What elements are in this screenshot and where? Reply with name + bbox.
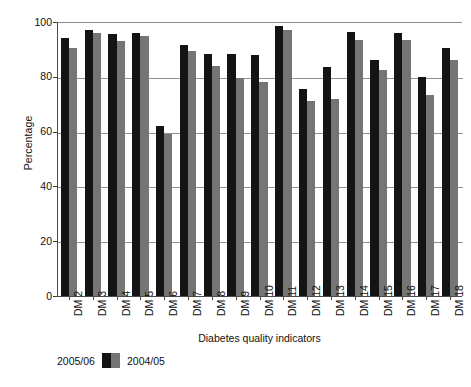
x-tick-mark — [140, 296, 141, 300]
bar-dm-11-2004-05 — [283, 30, 291, 296]
legend-swatch — [102, 353, 120, 368]
bar-dm-15-2004-05 — [379, 70, 387, 296]
legend-swatch-2004-05 — [111, 353, 120, 368]
x-tick-mark — [450, 296, 451, 300]
y-axis-tick-labels: 020406080100 — [22, 0, 52, 387]
x-axis-tick-labels: DM 2DM 3DM 4DM 5DM 6DM 7DM 8DM 9DM 10DM … — [57, 296, 462, 336]
bar-dm-12-2005-06 — [299, 89, 307, 296]
y-tick-mark — [53, 296, 57, 297]
y-tick-label: 80 — [26, 71, 52, 81]
x-tick-mark — [188, 296, 189, 300]
bar-dm-13-2004-05 — [331, 99, 339, 296]
bar-dm-16-2004-05 — [402, 40, 410, 296]
bar-dm-17-2004-05 — [426, 95, 434, 296]
bar-dm-2-2005-06 — [61, 38, 69, 296]
x-tick-label: DM 6 — [168, 272, 179, 316]
x-tick-mark — [164, 296, 165, 300]
x-tick-label: DM 2 — [73, 272, 84, 316]
x-tick-label: DM 17 — [430, 272, 441, 316]
bar-dm-4-2005-06 — [108, 34, 116, 296]
x-tick-mark — [69, 296, 70, 300]
bar-group — [370, 22, 386, 296]
x-tick-label: DM 16 — [406, 272, 417, 316]
y-tick-label: 40 — [26, 181, 52, 191]
x-tick-label: DM 9 — [240, 272, 251, 316]
bar-dm-13-2005-06 — [323, 67, 331, 296]
x-tick-label: DM 13 — [335, 272, 346, 316]
bar-dm-9-2005-06 — [227, 54, 235, 296]
x-tick-mark — [260, 296, 261, 300]
x-tick-mark — [93, 296, 94, 300]
y-tick-label: 60 — [26, 126, 52, 136]
bar-dm-8-2004-05 — [212, 66, 220, 296]
bar-dm-6-2005-06 — [156, 126, 164, 296]
bar-group — [442, 22, 458, 296]
bars-layer — [57, 22, 462, 296]
bar-dm-8-2005-06 — [204, 54, 212, 296]
x-tick-label: DM 7 — [192, 272, 203, 316]
y-tick-mark — [53, 132, 57, 133]
bar-group — [156, 22, 172, 296]
x-tick-mark — [307, 296, 308, 300]
legend-label-2005-06: 2005/06 — [57, 355, 95, 367]
x-tick-label: DM 8 — [216, 272, 227, 316]
bar-dm-14-2005-06 — [347, 32, 355, 296]
bar-dm-14-2004-05 — [355, 40, 363, 296]
x-tick-mark — [331, 296, 332, 300]
bar-dm-10-2004-05 — [259, 82, 267, 296]
x-tick-mark — [117, 296, 118, 300]
y-tick-mark — [53, 186, 57, 187]
bar-group — [299, 22, 315, 296]
legend-swatch-2005-06 — [102, 353, 111, 368]
x-tick-mark — [236, 296, 237, 300]
y-tick-label: 100 — [26, 17, 52, 27]
bar-dm-12-2004-05 — [307, 101, 315, 296]
x-tick-label: DM 3 — [97, 272, 108, 316]
bar-group — [180, 22, 196, 296]
bar-dm-11-2005-06 — [275, 26, 283, 296]
bar-dm-5-2005-06 — [132, 33, 140, 296]
bar-dm-7-2005-06 — [180, 45, 188, 296]
bar-dm-7-2004-05 — [188, 51, 196, 296]
bar-group — [132, 22, 148, 296]
bar-dm-18-2005-06 — [442, 48, 450, 296]
bar-group — [204, 22, 220, 296]
bar-dm-9-2004-05 — [236, 78, 244, 296]
bar-group — [85, 22, 101, 296]
bar-group — [394, 22, 410, 296]
bar-dm-2-2004-05 — [69, 48, 77, 296]
x-tick-mark — [355, 296, 356, 300]
x-tick-label: DM 10 — [264, 272, 275, 316]
bar-dm-3-2005-06 — [85, 30, 93, 296]
y-tick-mark — [53, 22, 57, 23]
y-tick-label: 20 — [26, 236, 52, 246]
bar-group — [61, 22, 77, 296]
x-tick-label: DM 12 — [311, 272, 322, 316]
bar-dm-15-2005-06 — [370, 60, 378, 296]
bar-dm-17-2005-06 — [418, 77, 426, 296]
x-tick-mark — [402, 296, 403, 300]
bar-dm-4-2004-05 — [117, 41, 125, 296]
bar-dm-5-2004-05 — [140, 36, 148, 296]
bar-dm-3-2004-05 — [93, 33, 101, 296]
bar-dm-16-2005-06 — [394, 33, 402, 296]
x-tick-label: DM 4 — [121, 272, 132, 316]
bar-dm-18-2004-05 — [450, 60, 458, 296]
bar-chart-figure: Percentage 020406080100 DM 2DM 3DM 4DM 5… — [0, 0, 471, 387]
bar-group — [251, 22, 267, 296]
bar-group — [275, 22, 291, 296]
x-tick-mark — [426, 296, 427, 300]
legend-label-2004-05: 2004/05 — [127, 355, 165, 367]
x-tick-mark — [212, 296, 213, 300]
bar-group — [323, 22, 339, 296]
y-tick-mark — [53, 77, 57, 78]
x-tick-label: DM 11 — [287, 272, 298, 316]
x-tick-mark — [379, 296, 380, 300]
x-tick-label: DM 14 — [359, 272, 370, 316]
bar-group — [108, 22, 124, 296]
y-tick-mark — [53, 241, 57, 242]
bar-group — [227, 22, 243, 296]
bar-group — [347, 22, 363, 296]
x-tick-mark — [283, 296, 284, 300]
x-axis-title: Diabetes quality indicators — [57, 332, 462, 344]
